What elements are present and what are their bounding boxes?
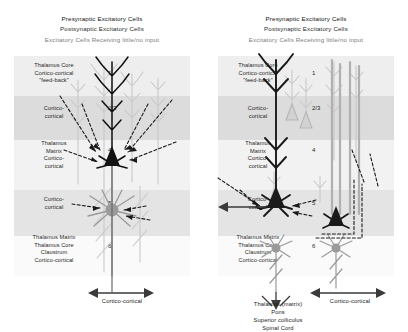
right-legend: Presynaptic Excitatory Cells Postsynapti… [204,14,408,45]
target-spinal-cord: Spinal Cord [226,324,330,332]
right-label-layer-5: Cortico- cortical [206,196,310,211]
target-pons: Pons [226,308,330,316]
right-label-layer-23: Cortico- cortical [206,105,310,120]
legend-little-no-input: Excitatory Cells Receiving little/no inp… [204,35,408,45]
legend-postsynaptic: Postsynaptic Excitatory Cells [204,24,408,34]
right-label-layer-1: Thalamus Core Cortico-cortical "feed-bac… [206,62,310,85]
right-subcortical-targets: Thalamus (matrix) Pons Superior collicul… [226,300,330,332]
left-output-caption: Cortico-cortical [92,297,152,305]
legend-presynaptic: Presynaptic Excitatory Cells [0,14,204,24]
right-num-layer-5: 5 [312,200,328,206]
right-num-layer-4: 4 [312,147,328,153]
left-num-layer-4: 4 [108,147,124,153]
target-superior-colliculus: Superior colliculus [226,316,330,324]
right-label-layer-4: Thalamus Matrix Cortico- cortical [206,140,310,170]
right-num-layer-23: 2/3 [312,105,328,111]
legend-presynaptic: Presynaptic Excitatory Cells [204,14,408,24]
right-num-layer-1: 1 [312,70,328,76]
left-num-layer-23: 2/3 [108,105,124,111]
left-panel: Presynaptic Excitatory Cells Postsynapti… [0,0,204,330]
right-panel: Presynaptic Excitatory Cells Postsynapti… [204,0,408,330]
left-label-layer-5: Cortico- cortical [2,196,106,211]
left-num-layer-6: 6 [108,243,124,249]
left-num-layer-1: 1 [108,70,124,76]
left-num-layer-5: 5 [108,200,124,206]
right-label-layer-6: Thalamus Matrix Thalamus Core Claustrum … [206,234,310,264]
left-legend: Presynaptic Excitatory Cells Postsynapti… [0,14,204,45]
legend-little-no-input: Excitatory Cells Receiving little/no inp… [0,35,204,45]
left-label-layer-1: Thalamus Core Cortico-cortical "feed-bac… [2,62,106,85]
target-thalamus-matrix: Thalamus (matrix) [226,300,330,308]
left-label-layer-4: Thalamus Matrix Cortico- cortical [2,140,106,170]
right-num-layer-6: 6 [312,243,328,249]
left-label-layer-6: Thalamus Matrix Thalamus Core Claustrum … [2,234,106,264]
legend-postsynaptic: Postsynaptic Excitatory Cells [0,24,204,34]
left-label-layer-23: Cortico- cortical [2,105,106,120]
